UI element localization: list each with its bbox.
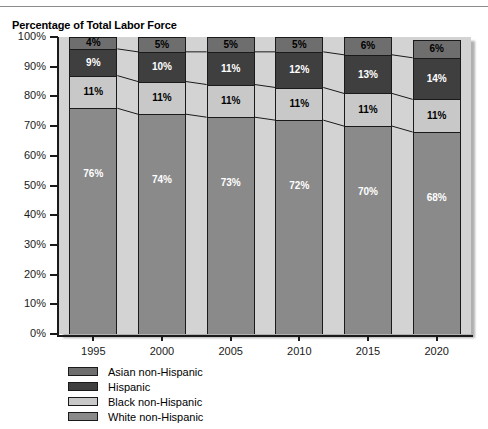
y-axis-tick: [50, 36, 58, 38]
bar-segment: 5%: [207, 37, 255, 52]
x-axis-tick-label: 2005: [201, 345, 261, 357]
connector-line: [323, 87, 344, 93]
y-axis-tick-label: 50%: [24, 179, 46, 191]
bar-segment: 11%: [413, 99, 461, 132]
connector-line: [186, 114, 207, 117]
x-axis-tick-label: 2000: [132, 345, 192, 357]
y-axis-tick-label: 20%: [24, 268, 46, 280]
bar-segment-label: 11%: [84, 87, 103, 97]
bar-segment-label: 5%: [223, 40, 237, 50]
y-axis-tick: [50, 185, 58, 187]
stacked-bar: 73%11%11%5%: [207, 37, 255, 334]
bar-segment: 13%: [344, 55, 392, 94]
connector-line: [392, 55, 413, 58]
y-axis-tick-label: 60%: [24, 149, 46, 161]
y-axis-tick-label: 0%: [30, 327, 46, 339]
legend-label: Asian non-Hispanic: [108, 366, 203, 378]
y-axis-tick-label: 30%: [24, 238, 46, 250]
x-axis-tick: [230, 335, 232, 341]
y-axis-tick-label: 90%: [24, 60, 46, 72]
y-axis-tick: [50, 274, 58, 276]
y-axis-tick-label: 40%: [24, 208, 46, 220]
bar-segment-label: 14%: [427, 74, 447, 84]
bar-segment: 11%: [138, 82, 186, 115]
bar-segment-label: 5%: [292, 40, 306, 50]
bar-segment-label: 6%: [429, 44, 443, 54]
bar-segment-label: 11%: [427, 111, 446, 121]
bar-segment: 68%: [413, 132, 461, 334]
connector-line: [117, 108, 138, 114]
bar-segment: 70%: [344, 126, 392, 334]
bar-segment: 9%: [69, 49, 117, 76]
legend-swatch: [68, 412, 98, 421]
y-axis-tick: [50, 155, 58, 157]
y-axis-tick-label: 80%: [24, 89, 46, 101]
bar-segment: 11%: [69, 76, 117, 109]
stacked-bar: 68%11%14%6%: [413, 37, 461, 334]
bar-segment: 5%: [275, 37, 323, 52]
bar-segment: 72%: [275, 120, 323, 334]
bar-segment-label: 11%: [358, 105, 377, 115]
bar-segment-label: 12%: [289, 65, 309, 75]
stacked-bar: 72%11%12%5%: [275, 37, 323, 334]
y-axis-tick-label: 10%: [24, 297, 46, 309]
connector-line: [117, 76, 138, 82]
y-axis-tick-label: 70%: [24, 119, 46, 131]
bar-segment-label: 68%: [427, 193, 447, 203]
bar-segment-label: 73%: [221, 178, 241, 188]
bar-segment-label: 76%: [83, 169, 103, 179]
y-axis-tick: [50, 66, 58, 68]
legend-swatch: [68, 367, 98, 376]
bar-segment: 12%: [275, 52, 323, 88]
x-axis-line: [57, 335, 473, 337]
bar-segment-label: 11%: [221, 96, 240, 106]
top-divider-rule: [0, 6, 488, 7]
x-axis-tick: [436, 335, 438, 341]
connector-line: [186, 82, 207, 85]
legend-item: Hispanic: [68, 379, 203, 394]
y-axis-tick: [50, 125, 58, 127]
bar-segment-label: 10%: [152, 62, 172, 72]
bar-segment-label: 72%: [289, 181, 309, 191]
x-axis-tick-label: 2020: [407, 345, 467, 357]
bar-segment: 11%: [275, 88, 323, 121]
bar-segment: 6%: [344, 37, 392, 55]
bar-segment-label: 11%: [152, 93, 171, 103]
bar-segment: 76%: [69, 108, 117, 334]
x-axis-tick-label: 1995: [63, 345, 123, 357]
bar-segment-label: 13%: [358, 70, 378, 80]
y-axis-tick: [50, 333, 58, 335]
stacked-bar: 70%11%13%6%: [344, 37, 392, 334]
y-axis-tick: [50, 244, 58, 246]
legend-swatch: [68, 382, 98, 391]
connector-line: [392, 93, 413, 99]
bar-segment-label: 11%: [290, 99, 309, 109]
connector-line: [255, 117, 276, 120]
y-axis-tick: [50, 95, 58, 97]
bar-segment: 4%: [69, 37, 117, 49]
bar-segment: 11%: [344, 93, 392, 126]
chart-legend: Asian non-HispanicHispanicBlack non-Hisp…: [68, 364, 203, 424]
y-axis-tick: [50, 303, 58, 305]
bar-segment-label: 74%: [152, 175, 172, 185]
x-axis-tick: [367, 335, 369, 341]
bar-segment: 11%: [207, 52, 255, 85]
bar-segment: 14%: [413, 58, 461, 100]
bar-segment-label: 6%: [361, 41, 375, 51]
plot-area: 76%11%9%4%74%11%10%5%73%11%11%5%72%11%12…: [59, 37, 471, 334]
legend-label: White non-Hispanic: [108, 411, 203, 423]
bar-segment-label: 11%: [221, 64, 240, 74]
bar-segment: 6%: [413, 40, 461, 58]
bar-segment-label: 70%: [358, 187, 378, 197]
x-axis-tick: [161, 335, 163, 341]
legend-label: Black non-Hispanic: [108, 396, 202, 408]
y-axis-tick-label: 100%: [18, 30, 46, 42]
bar-segment: 74%: [138, 114, 186, 334]
bar-segment: 5%: [138, 37, 186, 52]
stacked-bar: 76%11%9%4%: [69, 37, 117, 334]
bar-segment: 11%: [207, 85, 255, 118]
x-axis-tick-label: 2010: [269, 345, 329, 357]
legend-item: White non-Hispanic: [68, 409, 203, 424]
legend-swatch: [68, 397, 98, 406]
bar-segment-label: 4%: [86, 38, 100, 48]
